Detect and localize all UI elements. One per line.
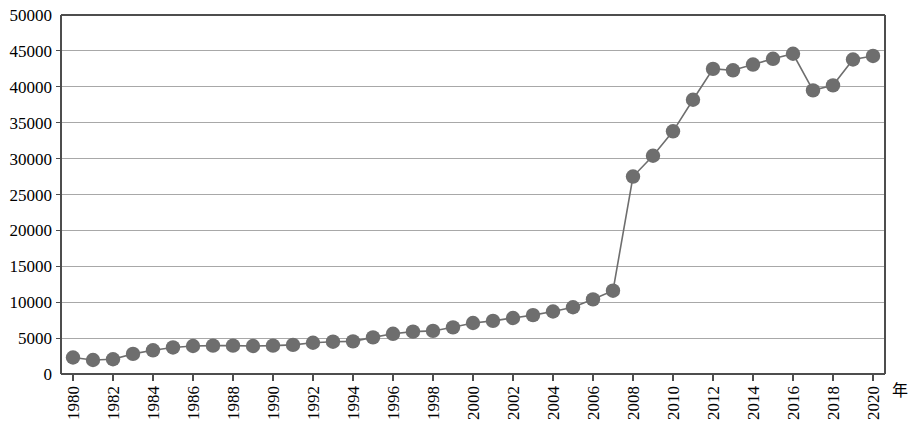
data-point-marker bbox=[586, 292, 600, 306]
y-tick-label: 15000 bbox=[10, 257, 53, 276]
data-point-marker bbox=[346, 334, 360, 348]
data-point-marker bbox=[706, 62, 720, 76]
data-point-marker bbox=[626, 169, 640, 183]
data-point-marker bbox=[606, 284, 620, 298]
data-point-marker bbox=[746, 57, 760, 71]
x-tick-label: 2014 bbox=[744, 386, 763, 421]
data-point-marker bbox=[266, 338, 280, 352]
y-tick-label: 50000 bbox=[10, 6, 53, 25]
data-point-marker bbox=[486, 314, 500, 328]
gridlines-group bbox=[61, 15, 885, 338]
data-point-marker bbox=[466, 316, 480, 330]
x-axis-labels-group: 1980198219841986198819901992199419961998… bbox=[64, 386, 883, 421]
data-series-group bbox=[66, 47, 880, 368]
data-point-marker bbox=[126, 347, 140, 361]
data-point-marker bbox=[566, 300, 580, 314]
x-tick-label: 1986 bbox=[184, 386, 203, 420]
x-tick-label: 1990 bbox=[264, 386, 283, 420]
data-point-marker bbox=[186, 339, 200, 353]
x-tick-label: 2018 bbox=[824, 386, 843, 420]
data-point-marker bbox=[386, 327, 400, 341]
x-tick-label: 1988 bbox=[224, 386, 243, 420]
data-point-marker bbox=[826, 78, 840, 92]
x-tick-label: 2010 bbox=[664, 386, 683, 420]
data-point-marker bbox=[66, 350, 80, 364]
data-point-marker bbox=[846, 52, 860, 66]
data-point-marker bbox=[306, 336, 320, 350]
x-tick-label: 1982 bbox=[104, 386, 123, 420]
x-tick-label: 2020 bbox=[864, 386, 883, 420]
y-axis-ticks-group: 0500010000150002000025000300003500040000… bbox=[10, 6, 62, 384]
x-tick-label: 1992 bbox=[304, 386, 323, 420]
data-point-marker bbox=[426, 324, 440, 338]
data-point-marker bbox=[686, 93, 700, 107]
line-chart: 0500010000150002000025000300003500040000… bbox=[0, 0, 909, 425]
data-point-marker bbox=[646, 149, 660, 163]
x-axis-ticks-group bbox=[73, 374, 873, 381]
y-tick-label: 5000 bbox=[18, 329, 52, 348]
y-tick-label: 35000 bbox=[10, 114, 53, 133]
x-tick-label: 1994 bbox=[344, 386, 363, 421]
data-point-marker bbox=[286, 338, 300, 352]
data-point-marker bbox=[366, 330, 380, 344]
data-point-marker bbox=[546, 304, 560, 318]
data-point-marker bbox=[506, 311, 520, 325]
x-tick-label: 2002 bbox=[504, 386, 523, 420]
data-point-marker bbox=[446, 320, 460, 334]
y-tick-label: 45000 bbox=[10, 42, 53, 61]
x-tick-label: 1996 bbox=[384, 386, 403, 420]
x-tick-label: 1998 bbox=[424, 386, 443, 420]
data-point-marker bbox=[166, 340, 180, 354]
series-line bbox=[73, 54, 873, 360]
data-point-marker bbox=[866, 49, 880, 63]
y-tick-label: 30000 bbox=[10, 150, 53, 169]
y-tick-label: 10000 bbox=[10, 293, 53, 312]
data-point-marker bbox=[326, 334, 340, 348]
data-point-marker bbox=[666, 124, 680, 138]
data-point-marker bbox=[86, 353, 100, 367]
data-point-marker bbox=[146, 343, 160, 357]
x-tick-label: 1984 bbox=[144, 386, 163, 421]
data-point-marker bbox=[406, 324, 420, 338]
data-point-marker bbox=[246, 339, 260, 353]
x-axis-unit-label: 年 bbox=[892, 382, 908, 399]
data-point-marker bbox=[806, 83, 820, 97]
x-tick-label: 2000 bbox=[464, 386, 483, 420]
x-tick-label: 2006 bbox=[584, 386, 603, 420]
data-point-marker bbox=[726, 63, 740, 77]
y-tick-label: 0 bbox=[44, 365, 53, 384]
data-point-marker bbox=[206, 338, 220, 352]
x-tick-label: 2016 bbox=[784, 386, 803, 420]
data-point-marker bbox=[226, 338, 240, 352]
data-point-marker bbox=[786, 47, 800, 61]
y-tick-label: 40000 bbox=[10, 78, 53, 97]
y-tick-label: 20000 bbox=[10, 221, 53, 240]
chart-container: 0500010000150002000025000300003500040000… bbox=[0, 0, 909, 425]
data-point-marker bbox=[526, 308, 540, 322]
data-point-marker bbox=[766, 52, 780, 66]
x-axis-unit-group: 年 bbox=[892, 382, 908, 399]
data-point-marker bbox=[106, 352, 120, 366]
y-tick-label: 25000 bbox=[10, 186, 53, 205]
x-tick-label: 2008 bbox=[624, 386, 643, 420]
x-tick-label: 2004 bbox=[544, 386, 563, 421]
x-tick-label: 1980 bbox=[64, 386, 83, 420]
x-tick-label: 2012 bbox=[704, 386, 723, 420]
